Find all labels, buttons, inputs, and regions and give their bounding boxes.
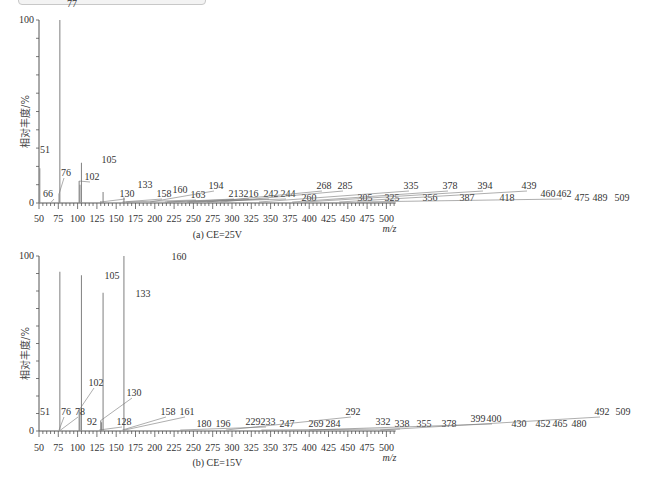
- peak-label: 452: [536, 418, 551, 429]
- peak-label: 160: [172, 251, 187, 262]
- peak-label: 378: [442, 418, 457, 429]
- x-tick-label: 125: [89, 213, 104, 224]
- y-tick-label-100: 100: [19, 250, 34, 261]
- peak-label: 400: [487, 413, 502, 424]
- x-tick-label: 350: [263, 442, 278, 453]
- y-tick-label-100: 100: [19, 14, 34, 25]
- peak-label: 332: [376, 416, 391, 427]
- peak-label: 78: [75, 406, 85, 417]
- x-tick-label: 50: [34, 213, 44, 224]
- y-tick-label-0: 0: [29, 425, 34, 436]
- x-axis-unit: m/z: [382, 223, 396, 234]
- peak-label: 460: [541, 188, 556, 199]
- peak-label: 133: [136, 288, 151, 299]
- peak-label: 378: [443, 180, 458, 191]
- x-tick-label: 400: [302, 213, 317, 224]
- peak-label: 51: [40, 144, 50, 155]
- x-tick-label: 150: [109, 442, 124, 453]
- peak-label: 102: [85, 171, 100, 182]
- x-tick-label: 250: [186, 213, 201, 224]
- spectrum-panel-b: 1000相对丰度/%507510012515017520022525027530…: [19, 250, 631, 469]
- x-tick-label: 225: [167, 213, 182, 224]
- peak-label: 105: [105, 270, 120, 281]
- peak-label: 285: [338, 180, 353, 191]
- peak-label: 51: [40, 406, 50, 417]
- peak-label: 399: [471, 413, 486, 424]
- panel-caption: (b) CE=15V: [192, 457, 243, 469]
- x-tick-label: 275: [205, 442, 220, 453]
- peak-label: 128: [117, 416, 132, 427]
- x-tick-label: 250: [186, 442, 201, 453]
- peak-label: 418: [500, 192, 515, 203]
- x-tick-label: 475: [360, 442, 375, 453]
- peak-label: 130: [120, 188, 135, 199]
- peak-label: 160: [173, 184, 188, 195]
- peak-label: 394: [478, 180, 493, 191]
- peak-label: 430: [512, 418, 527, 429]
- y-axis-label: 相对丰度/%: [19, 327, 31, 380]
- peak-label: 180: [197, 418, 212, 429]
- x-tick-label: 400: [302, 442, 317, 453]
- y-tick-label-0: 0: [29, 197, 34, 208]
- panel-caption: (a) CE=25V: [193, 229, 243, 241]
- peak-label: 102: [89, 377, 104, 388]
- x-tick-label: 100: [70, 442, 85, 453]
- x-tick-label: 75: [53, 442, 63, 453]
- mass-spectrum-figure: 1000相对丰度/%507510012515017520022525027530…: [0, 0, 652, 488]
- peak-leader-line: [51, 199, 54, 202]
- x-tick-label: 200: [147, 213, 162, 224]
- peak-label: 229: [246, 416, 261, 427]
- peak-label: 194: [209, 180, 224, 191]
- x-tick-label: 275: [205, 213, 220, 224]
- x-tick-label: 475: [360, 213, 375, 224]
- peak-leader-line: [125, 417, 185, 430]
- spectrum-panel-a: 1000相对丰度/%507510012515017520022525027530…: [19, 0, 630, 241]
- x-tick-label: 325: [244, 442, 259, 453]
- x-tick-label: 425: [321, 213, 336, 224]
- x-tick-label: 450: [340, 442, 355, 453]
- x-tick-label: 300: [225, 213, 240, 224]
- peak-label: 158: [161, 406, 176, 417]
- x-tick-label: 200: [147, 442, 162, 453]
- x-tick-label: 100: [70, 213, 85, 224]
- x-tick-label: 375: [282, 213, 297, 224]
- peak-label: 130: [127, 387, 142, 398]
- x-tick-label: 175: [128, 442, 143, 453]
- peak-label: 92: [87, 416, 97, 427]
- peak-label: 462: [557, 188, 572, 199]
- x-tick-label: 325: [244, 213, 259, 224]
- x-tick-label: 375: [282, 442, 297, 453]
- peak-label: 269: [309, 418, 324, 429]
- peak-label: 509: [616, 406, 631, 417]
- peak-label: 509: [615, 192, 630, 203]
- peak-leader-line: [101, 199, 125, 202]
- x-tick-label: 300: [225, 442, 240, 453]
- peak-label: 161: [180, 406, 195, 417]
- x-tick-label: 225: [167, 442, 182, 453]
- peak-label: 480: [572, 418, 587, 429]
- peak-label: 66: [43, 188, 53, 199]
- peak-label: 77: [67, 0, 77, 9]
- peak-label: 292: [346, 406, 361, 417]
- peak-label: 335: [404, 180, 419, 191]
- x-tick-label: 150: [109, 213, 124, 224]
- peak-label: 213: [229, 188, 244, 199]
- peak-label: 105: [102, 154, 117, 165]
- peak-label: 492: [595, 406, 610, 417]
- x-tick-label: 175: [128, 213, 143, 224]
- peak-label: 133: [138, 179, 153, 190]
- x-tick-label: 125: [89, 442, 104, 453]
- peak-label: 158: [157, 188, 172, 199]
- peak-label: 196: [216, 418, 231, 429]
- peak-label: 489: [593, 192, 608, 203]
- peak-label: 475: [575, 192, 590, 203]
- y-axis-label: 相对丰度/%: [19, 95, 31, 148]
- x-tick-label: 425: [321, 442, 336, 453]
- x-tick-label: 350: [263, 213, 278, 224]
- peak-label: 268: [317, 180, 332, 191]
- x-tick-label: 50: [34, 442, 44, 453]
- peak-label: 76: [61, 167, 71, 178]
- peak-label: 76: [61, 406, 71, 417]
- peak-label: 387: [460, 192, 475, 203]
- peak-label: 439: [522, 180, 537, 191]
